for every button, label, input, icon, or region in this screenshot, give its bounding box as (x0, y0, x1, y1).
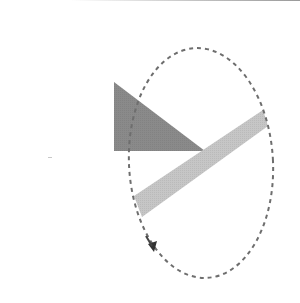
dark-triangle (114, 82, 205, 151)
rotation-diagram (0, 0, 300, 303)
